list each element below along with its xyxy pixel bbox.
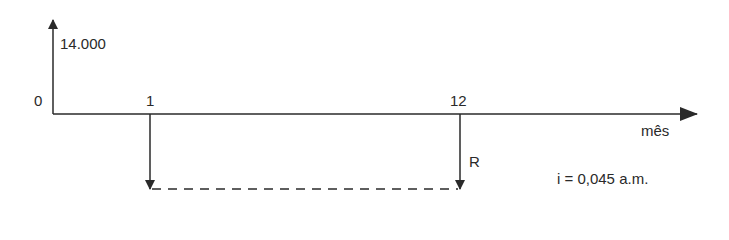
inflow-value-label: 14.000 [60,36,106,51]
period-12-label: 12 [450,93,467,108]
axis-label-month: mês [641,123,669,138]
period-1-label: 1 [146,93,154,108]
payment-label: R [469,154,480,169]
interest-rate-label: i = 0,045 a.m. [557,171,648,186]
origin-label: 0 [34,93,42,108]
